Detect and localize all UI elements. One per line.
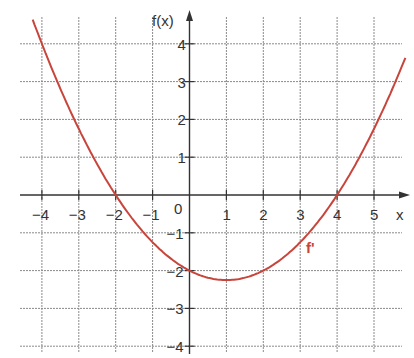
x-tick-label: −1 bbox=[143, 206, 160, 223]
y-tick-label: 3 bbox=[178, 74, 186, 91]
y-tick-label: −4 bbox=[167, 338, 184, 355]
x-tick-label: 5 bbox=[370, 206, 378, 223]
x-axis-arrow-icon bbox=[399, 192, 410, 199]
curve-label: f' bbox=[306, 239, 315, 256]
x-tick-label: −2 bbox=[106, 206, 123, 223]
x-axis-label: x bbox=[396, 206, 404, 223]
origin-label: 0 bbox=[174, 200, 182, 217]
y-tick-label: −1 bbox=[167, 225, 184, 242]
y-tick-label: 4 bbox=[178, 36, 186, 53]
x-tick-label: 3 bbox=[296, 206, 304, 223]
y-axis-label: f(x) bbox=[152, 12, 174, 29]
y-axis-arrow-icon bbox=[186, 10, 193, 21]
y-tick-label: 1 bbox=[178, 149, 186, 166]
y-tick-label: −3 bbox=[167, 300, 184, 317]
x-tick-label: 1 bbox=[222, 206, 230, 223]
x-tick-label: 4 bbox=[333, 206, 341, 223]
chart: −4−3−2−112345−4−3−2−11234 f(x) x 0 f' bbox=[0, 0, 414, 358]
y-tick-label: 2 bbox=[178, 111, 186, 128]
derivative-curve bbox=[33, 20, 406, 280]
x-tick-label: −3 bbox=[69, 206, 86, 223]
x-tick-label: 2 bbox=[259, 206, 267, 223]
x-tick-label: −4 bbox=[32, 206, 49, 223]
